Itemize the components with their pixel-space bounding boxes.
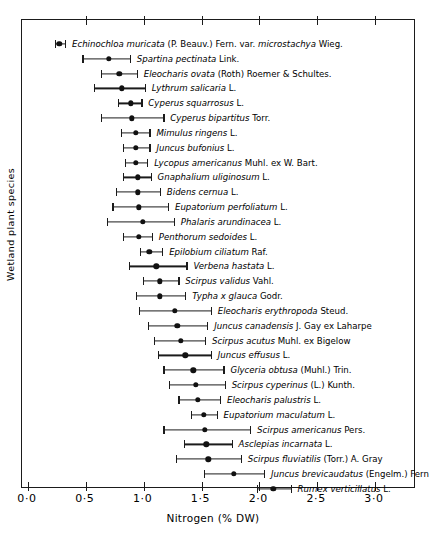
species-label: Penthorum sedoides L. (159, 232, 257, 241)
species-label: Verbena hastata L. (193, 262, 274, 271)
mean-marker[interactable] (203, 442, 208, 447)
mean-marker[interactable] (57, 41, 62, 46)
error-bar-cap-low (191, 411, 192, 419)
species-label: Juncus brevicaudatus (Engelm.) Fern (271, 470, 429, 479)
mean-marker[interactable] (183, 353, 188, 358)
mean-marker[interactable] (128, 101, 133, 106)
mean-marker[interactable] (206, 457, 211, 462)
error-bar-cap-high (160, 188, 161, 196)
mean-marker[interactable] (135, 190, 140, 195)
error-bar-cap-high (130, 55, 131, 63)
error-bar-cap-high (65, 40, 66, 48)
error-bar-cap-low (163, 366, 164, 374)
species-label: Juncus canadensis J. Gay ex Laharpe (214, 321, 372, 330)
mean-marker[interactable] (119, 86, 124, 91)
species-label: Epilobium ciliatum Raf. (169, 247, 268, 256)
species-label: Scirpus americanus Pers. (257, 425, 365, 434)
error-bar-cap-low (121, 129, 122, 137)
species-label: Mimulus ringens L. (156, 129, 237, 138)
mean-marker[interactable] (201, 412, 206, 417)
mean-marker[interactable] (133, 160, 138, 165)
error-bar-cap-low (101, 114, 102, 122)
error-bar-cap-low (143, 277, 144, 285)
error-bar-cap-high (186, 262, 187, 270)
mean-marker[interactable] (202, 427, 207, 432)
error-bar-cap-high (211, 351, 212, 359)
x-axis-title: Nitrogen (% DW) (0, 512, 426, 524)
error-bar-cap-low (176, 455, 177, 463)
species-label: Eleocharis ovata (Roth) Roemer & Schulte… (144, 69, 332, 78)
error-bar-cap-high (241, 455, 242, 463)
species-label: Cyperus bipartitus Torr. (170, 114, 270, 123)
error-bar-cap-low (140, 248, 141, 256)
mean-marker[interactable] (193, 382, 198, 387)
mean-marker[interactable] (129, 115, 134, 120)
x-tick-top (259, 16, 260, 25)
error-bar-cap-high (232, 440, 233, 448)
error-bar-cap-high (205, 337, 206, 345)
species-label: Cyperus squarrosus L. (148, 99, 244, 108)
species-label: Eupatorium maculatum L. (224, 410, 336, 419)
error-bar-cap-low (118, 99, 119, 107)
error-bar-cap-low (123, 233, 124, 241)
error-bar-cap-low (125, 159, 126, 167)
mean-marker[interactable] (135, 175, 140, 180)
mean-marker[interactable] (157, 293, 162, 298)
error-bar-cap-low (123, 173, 124, 181)
error-bar-cap-low (178, 396, 179, 404)
species-label: Bidens cernua L. (167, 188, 239, 197)
mean-marker[interactable] (154, 264, 159, 269)
mean-marker[interactable] (172, 308, 177, 313)
error-bar-cap-high (151, 173, 152, 181)
error-bar-cap-low (123, 144, 124, 152)
mean-marker[interactable] (157, 279, 162, 284)
x-tick-top (375, 16, 376, 25)
error-bar-cap-high (174, 218, 175, 226)
mean-marker[interactable] (191, 368, 196, 373)
mean-marker[interactable] (140, 219, 145, 224)
error-bar-cap-high (211, 307, 212, 315)
error-bar-cap-high (207, 322, 208, 330)
error-bar-cap-high (264, 470, 265, 478)
error-bar-cap-low (116, 188, 117, 196)
error-bar-cap-low (184, 440, 185, 448)
x-tick-label: 0·5 (75, 492, 94, 505)
error-bar-cap-low (112, 203, 113, 211)
species-label: Glyceria obtusa (Muhl.) Trin. (230, 366, 351, 375)
mean-marker[interactable] (106, 56, 111, 61)
mean-marker[interactable] (133, 145, 138, 150)
species-label: Scirpus fluviatilis (Torr.) A. Gray (248, 455, 383, 464)
error-bar-cap-low (204, 470, 205, 478)
error-bar-cap-low (154, 337, 155, 345)
mean-marker[interactable] (136, 234, 141, 239)
error-bar-cap-low (94, 84, 95, 92)
species-label: Lythrum salicaria L. (152, 84, 236, 93)
error-bar-cap-high (145, 84, 146, 92)
species-label: Typha x glauca Godr. (192, 292, 282, 301)
mean-marker[interactable] (195, 397, 200, 402)
error-bar-cap-high (152, 233, 153, 241)
error-bar-cap-low (101, 70, 102, 78)
error-bar-cap-high (220, 396, 221, 404)
mean-marker[interactable] (133, 130, 138, 135)
mean-marker[interactable] (147, 249, 152, 254)
error-bar-cap-low (169, 381, 170, 389)
mean-marker[interactable] (136, 204, 141, 209)
species-label: Eleocharis erythropoda Steud. (218, 307, 348, 316)
error-bar-cap-high (162, 248, 163, 256)
mean-marker[interactable] (178, 338, 183, 343)
error-bar-cap-high (223, 366, 224, 374)
y-axis-title: Wetland plant species (5, 145, 16, 305)
species-label: Asclepias incarnata L. (239, 440, 333, 449)
x-tick-top (202, 16, 203, 25)
species-label: Eleocharis palustris L. (227, 396, 321, 405)
plot-frame: Echinochloa muricata (P. Beauv.) Fern. v… (21, 19, 415, 488)
error-bar-cap-high (291, 485, 292, 493)
error-bar-cap-low (139, 307, 140, 315)
mean-marker[interactable] (231, 471, 236, 476)
mean-marker[interactable] (117, 71, 122, 76)
species-label: Gnaphalium uliginosum L. (158, 173, 270, 182)
mean-marker[interactable] (271, 486, 276, 491)
mean-marker[interactable] (175, 323, 180, 328)
